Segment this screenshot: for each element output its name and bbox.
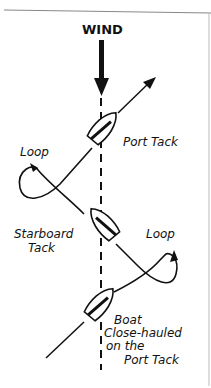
loop-left-label: Loop [20,145,49,159]
course-line-bottom [46,322,84,358]
wind-arrow-head [94,78,109,96]
boat-label-line1: Boat [114,313,143,327]
wind-arrow-shaft [99,40,104,80]
boat-label-line3: on the [106,339,144,353]
boat-port-tack [86,107,122,146]
boat-label-line2: Close-hauled [104,326,182,340]
wind-label: WIND [82,22,123,37]
loop-right-label: Loop [146,227,175,241]
starboard-tack-label-line2: Tack [28,241,56,255]
port-tack-label: Port Tack [123,135,179,149]
loop-right-arrow-head [170,250,178,262]
top-rule [4,10,211,13]
boat-label-line4: Port Tack [124,353,180,367]
starboard-tack-label-line1: Starboard [14,227,74,241]
loop-right-course [114,244,177,292]
boat-starboard-tack [85,203,121,242]
sailing-tack-diagram: WIND Port Tack Loop Starboard Tack Loop … [0,0,211,388]
